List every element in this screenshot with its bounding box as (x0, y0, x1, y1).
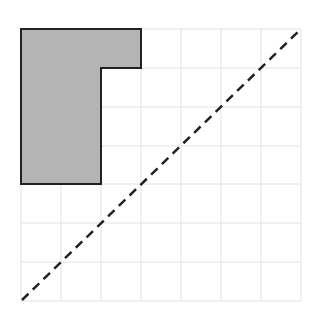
grid-diagram (0, 0, 309, 313)
